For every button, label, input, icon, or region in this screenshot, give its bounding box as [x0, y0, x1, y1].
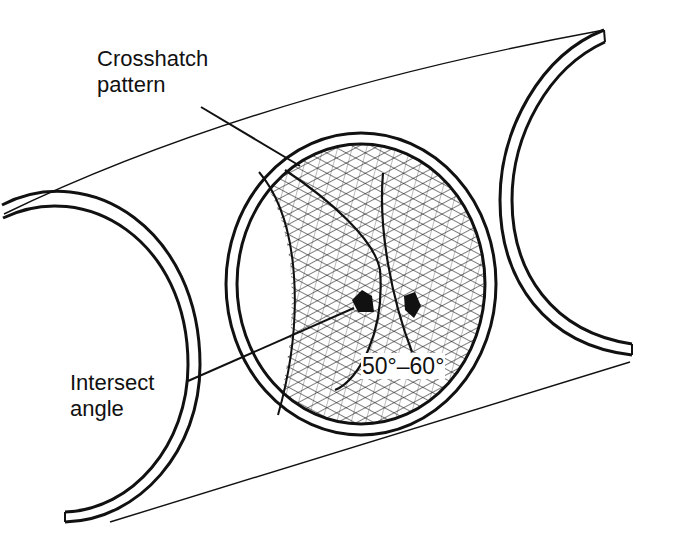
leader-crosshatch	[201, 107, 300, 166]
left-cylinder-arc	[2, 191, 200, 522]
label-crosshatch-line1: Crosshatch	[97, 46, 208, 71]
label-angle-range: 50°–60°	[361, 353, 445, 379]
label-intersect-angle: Intersect angle	[70, 370, 154, 422]
center-bore	[226, 130, 496, 435]
label-intersect-line1: Intersect	[70, 370, 154, 395]
label-intersect-line2: angle	[70, 396, 124, 421]
label-crosshatch-line2: pattern	[97, 72, 166, 97]
right-cylinder-arc	[500, 30, 632, 355]
label-crosshatch-pattern: Crosshatch pattern	[97, 46, 208, 98]
